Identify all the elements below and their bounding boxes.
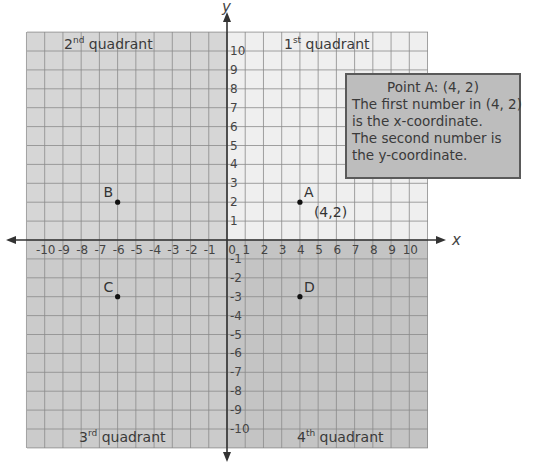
x-tick-label: 6	[334, 243, 342, 257]
y-tick-label: -1	[230, 252, 242, 266]
y-tick-label: -2	[230, 271, 242, 285]
y-tick-label: -3	[230, 290, 242, 304]
x-tick-label: 1	[242, 243, 250, 257]
point-b-dot	[115, 200, 120, 205]
quadrant-3-fill	[27, 240, 227, 448]
quadrant-2-fill	[27, 32, 227, 240]
x-tick-label: 7	[352, 243, 360, 257]
quadrant-4-label: 4th quadrant	[297, 428, 384, 445]
x-tick-label: 9	[388, 243, 396, 257]
y-tick-label: -6	[230, 346, 242, 360]
y-tick-label: -8	[230, 384, 242, 398]
point-c-dot	[115, 294, 120, 299]
y-axis-down-arrow-icon	[223, 452, 231, 462]
x-tick-label: 4	[297, 243, 305, 257]
y-axis-label: y	[221, 0, 232, 16]
point-c-label: C	[104, 279, 114, 295]
y-tick-label: 5	[230, 139, 238, 153]
point-d-dot	[297, 294, 302, 299]
y-tick-label: 4	[230, 157, 238, 171]
y-tick-label: 1	[230, 214, 238, 228]
point-a-label: A	[304, 184, 314, 200]
y-tick-label: -7	[230, 365, 242, 379]
x-tick-label: -6	[113, 243, 125, 257]
quadrant-4-fill	[227, 240, 428, 448]
info-box: Point A: (4, 2) The first number in (4, …	[345, 73, 521, 179]
point-d-label: D	[304, 279, 315, 295]
x-axis-left-arrow-icon	[6, 236, 16, 244]
x-tick-label: -2	[186, 243, 198, 257]
x-axis-label: x	[451, 231, 461, 249]
x-tick-label: -9	[58, 243, 70, 257]
x-tick-label: 3	[279, 243, 287, 257]
info-box-line: The first number in (4, 2)	[352, 96, 514, 113]
y-tick-label: 8	[230, 82, 238, 96]
x-tick-label: -3	[167, 243, 179, 257]
y-tick-label: 7	[230, 101, 238, 115]
x-tick-label: -7	[94, 243, 106, 257]
info-box-title: Point A: (4, 2)	[352, 79, 514, 96]
point-a-coordinate-label: (4,2)	[314, 204, 347, 220]
x-tick-label: 2	[261, 243, 269, 257]
y-tick-label: 6	[230, 120, 238, 134]
x-tick-label: -10	[36, 243, 56, 257]
info-box-line: The second number is	[352, 130, 514, 147]
y-tick-label: -9	[230, 403, 242, 417]
x-tick-label: -4	[149, 243, 161, 257]
y-tick-label: 9	[230, 63, 238, 77]
x-tick-label: 10	[403, 243, 418, 257]
x-tick-label: -1	[204, 243, 216, 257]
y-tick-label: 3	[230, 176, 238, 190]
quadrant-3-label: 3rd quadrant	[79, 428, 166, 445]
y-tick-label: -10	[230, 422, 250, 436]
y-tick-label: 10	[230, 44, 245, 58]
point-b-label: B	[104, 184, 114, 200]
point-a-dot	[297, 200, 302, 205]
x-tick-label: -5	[131, 243, 143, 257]
y-tick-label: -4	[230, 309, 242, 323]
x-tick-label: 5	[315, 243, 323, 257]
x-tick-label: 8	[370, 243, 378, 257]
quadrant-2-label: 2nd quadrant	[64, 35, 153, 52]
quadrant-1-label: 1st quadrant	[284, 35, 370, 52]
y-tick-label: 2	[230, 195, 238, 209]
info-box-line: is the x-coordinate.	[352, 113, 514, 130]
x-tick-label: -8	[76, 243, 88, 257]
info-box-line: the y-coordinate.	[352, 147, 514, 164]
x-axis-right-arrow-icon	[436, 236, 446, 244]
coordinate-plane: xy -10-9-8-7-6-5-4-3-2-10123456789101098…	[0, 0, 536, 468]
y-tick-label: -5	[230, 328, 242, 342]
